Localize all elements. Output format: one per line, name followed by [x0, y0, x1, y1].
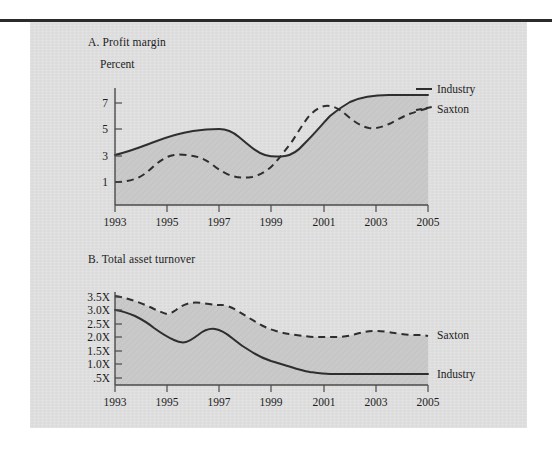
- chart-a-plot: 7 5 3 1 1993 1995 1997 1999 2001 2003 20…: [102, 83, 475, 228]
- chart-b-xlabel-4: 2001: [313, 396, 336, 408]
- chart-b-xlabel-0: 1993: [104, 396, 127, 408]
- chart-b-xlabel-3: 1999: [260, 396, 283, 408]
- chart-b-legend-industry-label: Industry: [437, 368, 476, 381]
- chart-a-xlabel-3: 1999: [260, 216, 283, 228]
- chart-b-ylabel-6: .5X: [93, 372, 111, 384]
- chart-b-ylabel-5: 1.0X: [87, 358, 110, 370]
- chart-b-ylabel-0: 3.5X: [87, 291, 110, 303]
- chart-a-area-fill: [115, 95, 428, 205]
- chart-b-area-fill: [115, 296, 428, 385]
- figure-page: A. Profit margin Percent: [0, 0, 552, 452]
- chart-a-legend-saxton-label: Saxton: [437, 103, 469, 115]
- chart-a-ylabel-0: 7: [102, 97, 108, 109]
- charts-svg: 7 5 3 1 1993 1995 1997 1999 2001 2003 20…: [0, 0, 552, 452]
- chart-a-xlabel-6: 2005: [417, 216, 440, 228]
- chart-a-ylabel-3: 1: [102, 176, 108, 188]
- chart-b-xlabel-5: 2003: [365, 396, 388, 408]
- chart-a-xlabel-0: 1993: [104, 216, 127, 228]
- chart-b-ylabel-4: 1.5X: [87, 345, 110, 357]
- chart-b-ylabel-1: 3.0X: [87, 304, 110, 316]
- chart-a-ylabel-2: 3: [102, 150, 108, 162]
- chart-a-xlabel-1: 1995: [156, 216, 179, 228]
- chart-a-ylabel-1: 5: [102, 123, 108, 135]
- chart-b-ylabel-3: 2.0X: [87, 331, 110, 343]
- chart-b-legend-saxton-label: Saxton: [437, 329, 469, 341]
- chart-b-plot: 3.5X 3.0X 2.5X 2.0X 1.5X 1.0X .5X 1993 1…: [87, 291, 475, 408]
- chart-b-xlabel-1: 1995: [156, 396, 179, 408]
- chart-a-xlabel-2: 1997: [208, 216, 231, 228]
- chart-a-xlabel-5: 2003: [365, 216, 388, 228]
- chart-a-xlabel-4: 2001: [313, 216, 336, 228]
- chart-b-ylabel-2: 2.5X: [87, 318, 110, 330]
- chart-b-title: B. Total asset turnover: [88, 253, 195, 265]
- chart-b-xlabel-6: 2005: [417, 396, 440, 408]
- chart-a-legend-industry-label: Industry: [437, 83, 476, 96]
- chart-b-xlabel-2: 1997: [208, 396, 231, 408]
